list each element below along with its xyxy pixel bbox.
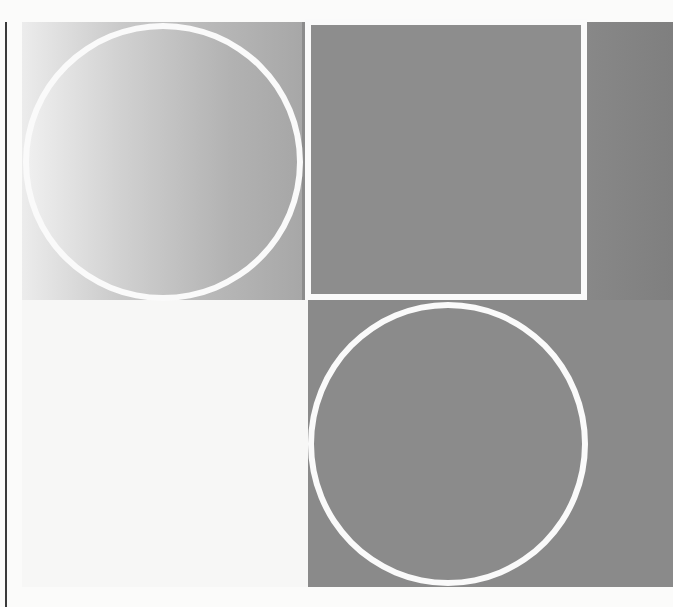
left-margin-rule <box>5 22 7 607</box>
white-outlined-square <box>305 19 587 300</box>
bottom-circle <box>308 302 588 586</box>
top-left-circle <box>23 23 303 301</box>
bottom-left-blank-field <box>22 300 308 587</box>
